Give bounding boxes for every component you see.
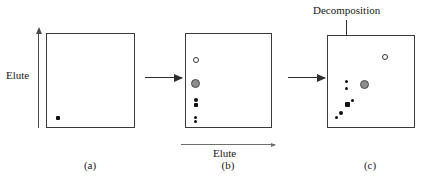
- spot-b-gray: [191, 79, 200, 88]
- spot-b-open: [193, 57, 199, 63]
- spot-c-gray: [360, 80, 369, 89]
- spot-b-dot-3: [194, 116, 197, 119]
- elute-vertical-arrow: [38, 33, 39, 128]
- spot-b-dot-1: [194, 98, 198, 102]
- spot-c-open: [382, 54, 388, 60]
- elute-vertical-label: Elute: [6, 69, 29, 82]
- arrow-head-up-icon: [36, 27, 42, 34]
- arrow-head-right-small-icon: [271, 143, 276, 147]
- elute-horizontal-arrow: [181, 144, 275, 145]
- caption-c: (c): [350, 159, 390, 172]
- step-arrow-b-to-c: [288, 77, 325, 78]
- chromatography-figure: Elute (a) Elute (b) Decomposition (c): [0, 0, 430, 180]
- spot-c-dot-3: [351, 99, 354, 102]
- tlc-plate-a: [46, 33, 135, 128]
- arrow-head-right-icon: [174, 74, 183, 82]
- spot-b-dot-4: [194, 120, 197, 123]
- caption-b: (b): [208, 159, 248, 172]
- decomposition-label: Decomposition: [313, 4, 380, 17]
- spot-b-dot-2: [194, 103, 198, 107]
- spot-c-dot-6: [335, 116, 338, 119]
- spot-a-origin: [56, 116, 60, 120]
- arrow-head-right-icon: [317, 74, 326, 82]
- spot-c-dot-4: [345, 102, 350, 107]
- step-arrow-a-to-b: [145, 77, 182, 78]
- caption-a: (a): [70, 159, 110, 172]
- spot-c-dot-2: [345, 87, 348, 90]
- spot-c-dot-1: [345, 80, 348, 83]
- spot-c-dot-5: [339, 111, 343, 115]
